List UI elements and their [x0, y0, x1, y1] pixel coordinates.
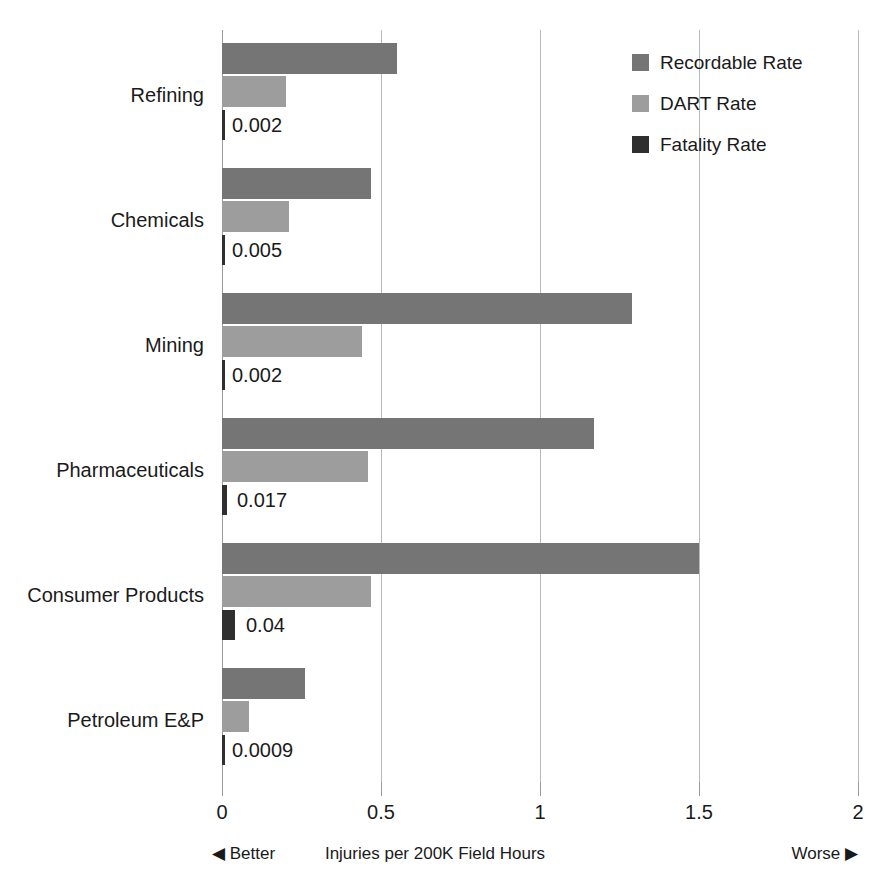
bar-recordable[interactable]	[222, 668, 305, 699]
bar-row-recordable	[222, 167, 858, 200]
bar-fatality[interactable]	[222, 485, 227, 515]
tick-mark-0	[222, 782, 223, 796]
bar-recordable[interactable]	[222, 168, 371, 199]
bar-row-fatality: 0.017	[222, 483, 858, 517]
tick-label-1: 1	[534, 800, 545, 824]
bar-row-fatality: 0.0009	[222, 733, 858, 767]
bar-dart[interactable]	[222, 201, 289, 232]
bar-row-recordable	[222, 417, 858, 450]
bar-recordable[interactable]	[222, 43, 397, 74]
tick-label-2: 2	[852, 800, 863, 824]
bar-group-mining: 0.002	[222, 292, 858, 392]
legend-label: DART Rate	[660, 93, 756, 115]
tick-label-1.5: 1.5	[685, 800, 713, 824]
bar-row-dart	[222, 450, 858, 483]
bar-dart[interactable]	[222, 76, 286, 107]
bar-row-dart	[222, 200, 858, 233]
fatality-value-label: 0.005	[232, 235, 282, 265]
legend-label: Recordable Rate	[660, 52, 803, 74]
bar-fatality[interactable]	[222, 735, 225, 765]
legend-swatch-icon	[632, 136, 649, 153]
bar-group-consumer-products: 0.04	[222, 542, 858, 642]
injury-rate-bar-chart: 0.002 0.005 0.	[0, 0, 870, 892]
tick-mark-1.5	[699, 782, 700, 796]
tick-label-0.5: 0.5	[367, 800, 395, 824]
tick-mark-0.5	[381, 782, 382, 796]
fatality-value-label: 0.04	[246, 610, 285, 640]
bar-group-pharmaceuticals: 0.017	[222, 417, 858, 517]
bar-fatality[interactable]	[222, 360, 225, 390]
fatality-value-label: 0.002	[232, 110, 282, 140]
bar-row-dart	[222, 700, 858, 733]
bar-fatality[interactable]	[222, 610, 235, 640]
x-axis-title: Injuries per 200K Field Hours	[325, 843, 545, 865]
tick-mark-1	[540, 782, 541, 796]
category-label-chemicals: Chemicals	[0, 208, 204, 232]
bar-row-dart	[222, 575, 858, 608]
chart-legend: Recordable Rate DART Rate Fatality Rate	[632, 42, 803, 165]
category-label-petroleum-ep: Petroleum E&P	[0, 708, 204, 732]
fatality-value-label: 0.002	[232, 360, 282, 390]
category-label-mining: Mining	[0, 333, 204, 357]
bar-dart[interactable]	[222, 576, 371, 607]
bar-fatality[interactable]	[222, 235, 225, 265]
fatality-value-label: 0.0009	[232, 735, 293, 765]
legend-swatch-icon	[632, 54, 649, 71]
category-label-pharmaceuticals: Pharmaceuticals	[0, 458, 204, 482]
category-label-consumer-products: Consumer Products	[0, 583, 204, 607]
tick-mark-2	[858, 782, 859, 796]
gridline-2	[858, 30, 859, 782]
legend-swatch-icon	[632, 95, 649, 112]
axis-note-better: ◀ Better	[212, 843, 275, 865]
legend-label: Fatality Rate	[660, 134, 767, 156]
bar-row-fatality: 0.002	[222, 358, 858, 392]
bar-row-recordable	[222, 292, 858, 325]
bar-recordable[interactable]	[222, 293, 632, 324]
bar-dart[interactable]	[222, 701, 249, 732]
bar-row-fatality: 0.005	[222, 233, 858, 267]
bar-row-dart	[222, 325, 858, 358]
bar-group-petroleum-ep: 0.0009	[222, 667, 858, 767]
legend-item-recordable-rate[interactable]: Recordable Rate	[632, 42, 803, 83]
bar-recordable[interactable]	[222, 543, 699, 574]
fatality-value-label: 0.017	[237, 485, 287, 515]
bar-dart[interactable]	[222, 451, 368, 482]
category-label-refining: Refining	[0, 83, 204, 107]
bar-row-recordable	[222, 667, 858, 700]
legend-item-dart-rate[interactable]: DART Rate	[632, 83, 803, 124]
bar-group-chemicals: 0.005	[222, 167, 858, 267]
bar-fatality[interactable]	[222, 110, 225, 140]
legend-item-fatality-rate[interactable]: Fatality Rate	[632, 124, 803, 165]
bar-recordable[interactable]	[222, 418, 594, 449]
axis-note-worse: Worse ▶	[791, 843, 858, 865]
tick-label-0: 0	[216, 800, 227, 824]
bar-row-recordable	[222, 542, 858, 575]
bar-row-fatality: 0.04	[222, 608, 858, 642]
bar-dart[interactable]	[222, 326, 362, 357]
